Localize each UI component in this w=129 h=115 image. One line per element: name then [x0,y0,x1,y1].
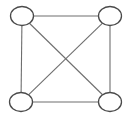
node-bottom-right [99,93,122,112]
node-top-left [11,7,34,26]
node-top-right [99,7,122,26]
edges-group [21,16,110,102]
node-bottom-left [10,93,33,112]
complete-graph-diagram [0,0,129,115]
edge-top-left-to-bottom-left [21,26,22,93]
